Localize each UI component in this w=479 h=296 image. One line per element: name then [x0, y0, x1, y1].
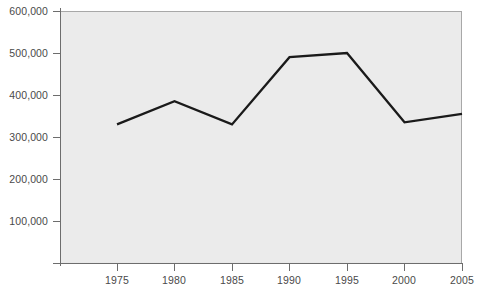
line-chart: 600,000 500,000 400,000 300,000 200,000 …: [0, 0, 479, 296]
data-line-series: [117, 53, 462, 124]
data-series-layer: [0, 0, 479, 296]
